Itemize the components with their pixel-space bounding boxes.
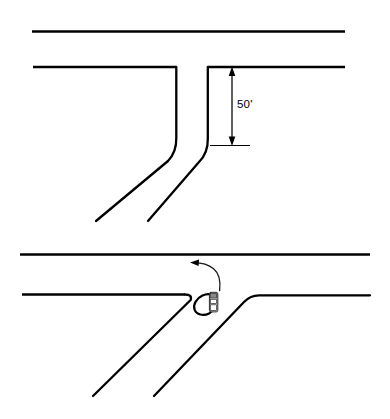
lower-panel — [20, 255, 370, 397]
truck-trailer-rear — [211, 305, 217, 311]
truck-cab — [211, 293, 217, 298]
dimension-label-50: 50' — [237, 98, 253, 110]
left-turn-arrow-shaft — [194, 263, 220, 291]
lower-right-curb-taper — [154, 295, 370, 396]
diagram-root: 50' — [0, 0, 390, 419]
truck-trailer-front — [211, 299, 217, 303]
lower-left-curb-taper — [93, 295, 191, 397]
left-turn-arrowhead — [190, 259, 199, 266]
truck-icon — [209, 292, 217, 312]
dimension-arrowhead-bottom — [229, 137, 236, 147]
upper-panel: 50' — [32, 32, 345, 222]
intersection-diagram: 50' — [0, 0, 390, 419]
upper-right-driveway-curb — [148, 67, 208, 221]
upper-left-driveway-curb — [96, 67, 176, 221]
